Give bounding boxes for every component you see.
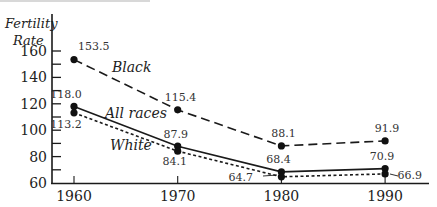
data-value-label: 153.5 xyxy=(78,40,110,53)
x-tick-label: 1970 xyxy=(160,188,196,204)
data-point-marker xyxy=(174,106,181,113)
y-tick-label: 80 xyxy=(29,149,47,165)
y-tick-label: 140 xyxy=(20,69,47,85)
data-value-label: 84.1 xyxy=(162,155,187,168)
series-label-white: White xyxy=(110,137,152,153)
y-tick-label: 120 xyxy=(20,96,47,112)
x-tick-label: 1980 xyxy=(264,188,300,204)
y-tick-label: 60 xyxy=(29,175,47,191)
data-point-marker xyxy=(382,137,389,144)
series-label-all-races: All races xyxy=(103,105,167,121)
data-point-marker xyxy=(174,148,181,155)
data-value-label: 115.4 xyxy=(165,91,197,104)
data-value-label: 66.9 xyxy=(398,169,423,182)
y-axis-title-line1: Fertility xyxy=(4,16,58,31)
series-label-black: Black xyxy=(111,59,151,75)
data-value-label: 64.7 xyxy=(228,171,253,184)
data-value-label: 70.9 xyxy=(370,150,395,163)
data-point-marker xyxy=(70,56,77,63)
data-value-label: 68.4 xyxy=(266,153,291,166)
data-value-label: 91.9 xyxy=(375,122,400,135)
y-tick-label: 100 xyxy=(20,122,47,138)
data-point-marker xyxy=(278,142,285,149)
data-point-marker xyxy=(278,173,285,180)
x-tick-label: 1990 xyxy=(367,188,403,204)
data-point-marker xyxy=(70,103,77,110)
data-value-label: 118.0 xyxy=(50,88,82,101)
data-point-marker xyxy=(382,170,389,177)
data-value-label: 87.9 xyxy=(163,128,188,141)
data-value-label: 88.1 xyxy=(271,127,296,140)
data-point-marker xyxy=(70,109,77,116)
fertility-rate-line-chart: Fertility Rate 6080100120140160 19601970… xyxy=(0,0,437,207)
x-tick-label: 1960 xyxy=(56,188,92,204)
data-value-label: 113.2 xyxy=(50,118,82,131)
y-tick-label: 160 xyxy=(20,43,47,59)
